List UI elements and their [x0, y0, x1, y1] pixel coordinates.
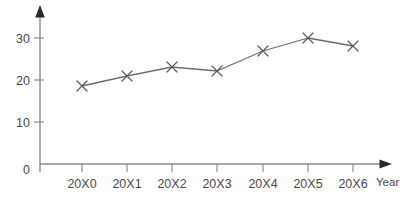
y-axis-ticks: [34, 38, 44, 122]
x-axis-label-20X0: 20X0: [67, 177, 96, 191]
x-axis-label-20X2: 20X2: [157, 177, 186, 191]
data-point-20X1: [122, 71, 132, 81]
chart-canvas: 30 20 10 0 20X0 20X1 20X2 20X3 20X4 20X5…: [0, 0, 410, 200]
y-axis-label-10: 10: [16, 116, 30, 130]
x-axis-label-20X4: 20X4: [248, 177, 277, 191]
line-chart: 30 20 10 0 20X0 20X1 20X2 20X3 20X4 20X5…: [0, 0, 410, 200]
x-axis-arrow-icon: [380, 159, 393, 168]
y-axis-label-20: 20: [16, 74, 30, 88]
y-axis-arrow-icon: [35, 5, 45, 18]
x-axis-label-20X3: 20X3: [202, 177, 231, 191]
series-markers: [77, 33, 358, 91]
data-point-20X4: [258, 46, 268, 56]
x-axis-label-20X1: 20X1: [112, 177, 141, 191]
x-axis-title: Year: [376, 176, 399, 188]
series-line-path: [82, 38, 353, 86]
y-axis-label-0: 0: [23, 163, 30, 177]
x-axis-label-20X5: 20X5: [293, 177, 322, 191]
data-point-20X0: [77, 81, 87, 91]
y-axis-label-30: 30: [16, 32, 30, 46]
x-axis-label-20X6: 20X6: [338, 177, 367, 191]
x-axis-ticks: [82, 164, 353, 172]
